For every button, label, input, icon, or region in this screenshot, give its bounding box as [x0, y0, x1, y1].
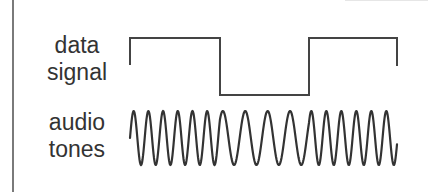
- fsk-diagram: [0, 0, 428, 192]
- data-signal-square-wave: [130, 38, 397, 95]
- audio-tones-sine-wave: [130, 111, 397, 165]
